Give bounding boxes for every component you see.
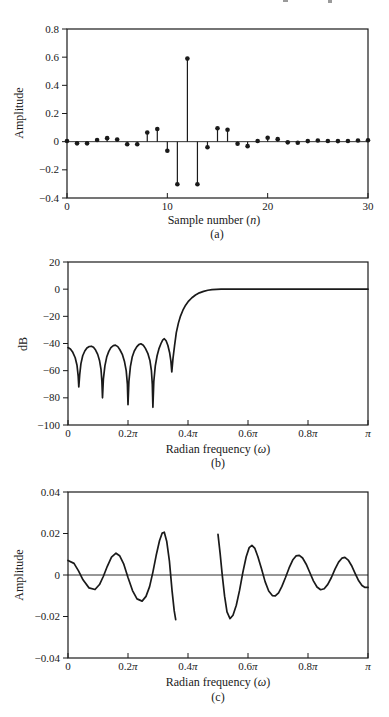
y-tick-label: −0.2	[39, 163, 59, 175]
response-curve	[68, 532, 176, 619]
y-tick-label: −0.04	[35, 652, 61, 664]
x-tick-label: 0.8π	[298, 660, 318, 672]
y-tick-label: −40	[43, 337, 61, 349]
stem-marker	[336, 139, 341, 144]
stem-marker	[135, 142, 140, 147]
x-tick-label: 20	[262, 200, 274, 212]
stem-marker	[185, 56, 190, 61]
stem-marker	[356, 138, 361, 143]
stem-marker	[255, 139, 260, 144]
stem-marker	[346, 139, 351, 144]
stem-marker	[265, 135, 270, 140]
y-axis-label-c: Amplitude	[12, 549, 27, 600]
stem-marker	[75, 141, 80, 146]
y-tick-label: −0.02	[35, 610, 60, 622]
stem-marker	[125, 142, 130, 147]
caption-a: (a)	[210, 227, 223, 242]
x-axis-label-c: Radian frequency (ω)	[166, 675, 270, 690]
y-tick-label: −100	[37, 419, 60, 431]
stem-marker	[295, 140, 300, 145]
stem-marker	[225, 127, 230, 132]
y-tick-label: 0.4	[45, 79, 59, 91]
stem-marker	[235, 141, 240, 146]
x-tick-label: 0	[64, 200, 70, 212]
x-tick-label: 0.8π	[298, 427, 318, 439]
stem-marker	[175, 182, 180, 187]
x-tick-label: 0.2π	[118, 427, 138, 439]
y-tick-label: 0	[55, 569, 61, 581]
stem-marker	[85, 141, 90, 146]
stem-marker	[275, 137, 280, 142]
x-tick-label: 30	[363, 200, 375, 212]
response-curve	[68, 289, 368, 407]
stem-marker	[165, 149, 170, 154]
chart-a: 0.80.60.40.20−0.2−0.40102030	[39, 23, 374, 213]
caption-c: (c)	[211, 690, 224, 705]
plot-frame	[67, 29, 368, 198]
y-tick-label: 0	[54, 135, 60, 147]
y-axis-label-b: dB	[16, 337, 31, 351]
stem-marker	[155, 127, 160, 132]
y-tick-label: −60	[43, 364, 61, 376]
stem-marker	[195, 182, 200, 187]
chart-b: 200−20−40−60−80−10000.2π0.4π0.6π0.8ππ	[37, 256, 371, 440]
stem-marker	[145, 130, 150, 135]
stem-marker	[326, 139, 331, 144]
plot-frame	[68, 262, 368, 425]
stem-marker	[105, 136, 110, 141]
x-tick-label: 0.4π	[178, 427, 198, 439]
x-tick-label: 0	[65, 660, 71, 672]
chart-c: 0.040.020−0.02−0.0400.2π0.4π0.6π0.8ππ	[35, 486, 372, 673]
x-tick-label: 0.2π	[118, 660, 138, 672]
stem-marker	[306, 139, 311, 144]
y-tick-label: −20	[43, 310, 61, 322]
y-tick-label: −80	[43, 391, 61, 403]
stem-marker	[95, 138, 100, 143]
response-curve	[218, 534, 368, 618]
stem-marker	[215, 126, 220, 131]
y-axis-label-a: Amplitude	[12, 87, 27, 138]
charts-canvas: 0.80.60.40.20−0.2−0.40102030200−20−40−60…	[0, 0, 389, 717]
y-tick-label: −0.4	[39, 192, 59, 204]
y-tick-label: 0.8	[45, 23, 59, 35]
y-tick-label: 0.02	[41, 527, 60, 539]
x-tick-label: 10	[162, 200, 174, 212]
stem-marker	[115, 137, 120, 142]
y-tick-label: 0	[55, 283, 61, 295]
x-tick-label: 0.6π	[238, 427, 258, 439]
x-tick-label: 0.6π	[238, 660, 258, 672]
figure-page: 0.80.60.40.20−0.2−0.40102030200−20−40−60…	[0, 0, 389, 717]
y-tick-label: 0.2	[45, 107, 59, 119]
x-tick-label: π	[365, 427, 371, 439]
y-tick-label: 20	[49, 256, 61, 268]
x-tick-label: π	[365, 660, 371, 672]
x-tick-label: 0.4π	[178, 660, 198, 672]
x-tick-label: 0	[65, 427, 71, 439]
y-tick-label: 0.6	[45, 51, 59, 63]
stem-marker	[205, 145, 210, 150]
stem-marker	[316, 138, 321, 143]
x-axis-label-b: Radian frequency (ω)	[166, 442, 270, 457]
x-axis-label-a: Sample number (n)	[168, 213, 261, 228]
stem-marker	[245, 144, 250, 149]
stem-marker	[285, 140, 290, 145]
y-tick-label: 0.04	[41, 486, 61, 498]
caption-b: (b)	[211, 456, 225, 471]
